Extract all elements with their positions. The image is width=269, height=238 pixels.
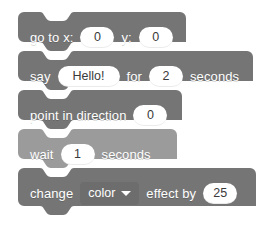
block-row: wait 1 seconds	[18, 138, 151, 170]
block-go-to-xy[interactable]: go to x: 0 y: 0	[18, 12, 186, 56]
input-y[interactable]: 0	[139, 27, 173, 48]
label-go-to-x: go to x:	[30, 31, 73, 44]
block-row: change color effect by 25	[18, 179, 237, 207]
input-message[interactable]: Hello!	[58, 66, 120, 87]
label-point-in-direction: point in direction	[30, 109, 126, 122]
block-row: go to x: 0 y: 0	[18, 21, 173, 53]
label-effect-by: effect by	[146, 187, 196, 200]
input-direction[interactable]: 0	[133, 105, 167, 126]
dropdown-effect-value: color	[88, 187, 115, 200]
label-seconds: seconds	[102, 148, 151, 161]
label-say: say	[30, 70, 51, 83]
input-duration[interactable]: 1	[61, 144, 95, 165]
label-seconds: seconds	[190, 70, 239, 83]
input-amount[interactable]: 25	[203, 183, 237, 204]
label-change: change	[30, 187, 73, 200]
input-seconds[interactable]: 2	[149, 66, 183, 87]
block-change-effect-by[interactable]: change color effect by 25	[18, 168, 256, 220]
label-y: y:	[121, 31, 131, 44]
block-row: say Hello! for 2 seconds	[18, 60, 239, 92]
block-row: point in direction 0	[18, 99, 167, 131]
block-point-in-direction[interactable]: point in direction 0	[18, 90, 182, 134]
chevron-down-icon	[121, 191, 131, 196]
block-script-canvas: go to x: 0 y: 0 say Hello! for 2 seconds…	[0, 0, 269, 238]
label-wait: wait	[30, 148, 54, 161]
block-wait-seconds[interactable]: wait 1 seconds	[18, 129, 177, 173]
dropdown-effect[interactable]: color	[80, 181, 139, 205]
input-x[interactable]: 0	[80, 27, 114, 48]
block-say-for-seconds[interactable]: say Hello! for 2 seconds	[18, 51, 253, 95]
label-for: for	[127, 70, 142, 83]
